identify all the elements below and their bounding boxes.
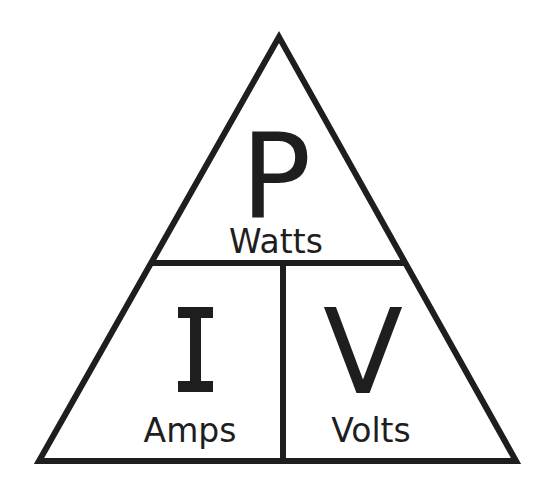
section-power: P Watts bbox=[229, 109, 323, 261]
symbol-voltage: V bbox=[323, 284, 403, 421]
section-current: I Amps bbox=[144, 307, 237, 450]
section-voltage: V Volts bbox=[323, 284, 411, 450]
unit-amps: Amps bbox=[144, 411, 237, 450]
unit-volts: Volts bbox=[331, 411, 411, 450]
unit-watts: Watts bbox=[229, 222, 323, 261]
symbol-current-glyph bbox=[178, 307, 213, 392]
power-triangle-diagram: P Watts I Amps V Volts bbox=[0, 0, 545, 486]
